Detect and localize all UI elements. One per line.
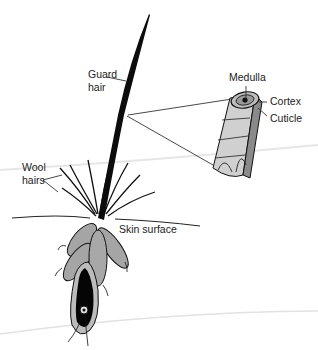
cuticle-label: Cuticle — [270, 112, 302, 124]
cortex-label: Cortex — [270, 95, 302, 107]
guard-hair — [98, 14, 150, 220]
medulla-label: Medulla — [229, 71, 266, 83]
background-line-upper — [0, 145, 318, 170]
wool-hairs-leader — [43, 175, 62, 192]
medulla-core — [242, 97, 247, 102]
wool-hairs-label-line1: Wool — [22, 161, 46, 173]
guard-hair-label-line1: Guard — [88, 68, 117, 80]
hair-segment-magnified — [213, 90, 262, 178]
wool-hairs-label-line2: hairs — [22, 174, 45, 186]
follicle-cluster — [55, 219, 133, 346]
guard-hair-label-line2: hair — [88, 81, 106, 93]
hair-structure-diagram: Guard hair Wool hairs Skin surface Medul… — [0, 0, 318, 350]
magnify-leader-top — [128, 99, 232, 115]
background-line-lower — [0, 311, 318, 334]
skin-surface-label: Skin surface — [119, 223, 177, 235]
